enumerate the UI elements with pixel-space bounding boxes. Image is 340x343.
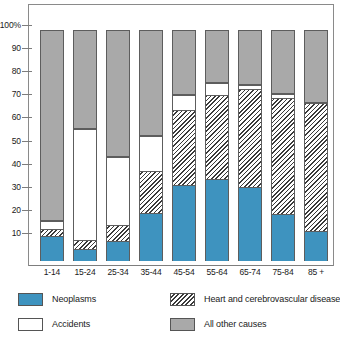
stacked-bar[interactable] [205,30,229,261]
accidents-swatch-icon [18,318,43,331]
y-tick-label-20: 20 [12,206,21,215]
segment-heart-cerebrovascular[interactable] [172,110,196,185]
segment-neoplasms[interactable] [139,213,163,262]
stacked-bar[interactable] [73,30,97,261]
segment-heart-cerebrovascular[interactable] [106,225,130,241]
segment-heart-cerebrovascular[interactable] [73,240,97,249]
stacked-bar[interactable] [304,30,328,261]
segment-accidents[interactable] [172,95,196,110]
x-axis-line [29,265,333,266]
segment-all-other-causes[interactable] [238,30,262,85]
segment-all-other-causes[interactable] [304,30,328,103]
segment-heart-cerebrovascular[interactable] [139,171,163,213]
y-tick-label-80: 80 [12,67,21,76]
segment-all-other-causes[interactable] [172,30,196,95]
y-tick-label-30: 30 [12,183,21,192]
segment-all-other-causes[interactable] [40,30,64,221]
segment-all-other-causes[interactable] [271,30,295,94]
x-axis: 1-14 15-24 25-34 35-44 45-54 55-64 65-74… [29,267,333,281]
segment-neoplasms[interactable] [238,187,262,261]
segment-accidents[interactable] [40,221,64,229]
y-axis: 100% 90 80 70 60 50 40 30 20 10 [0,0,28,266]
y-tick-label-10: 10 [12,229,21,238]
segment-neoplasms[interactable] [73,249,97,261]
segment-neoplasms[interactable] [304,231,328,261]
segment-neoplasms[interactable] [106,241,130,261]
segment-heart-cerebrovascular[interactable] [238,89,262,187]
segment-accidents[interactable] [73,129,97,240]
y-tick-label-40: 40 [12,160,21,169]
stacked-bar[interactable] [106,30,130,261]
y-tick-label-50: 50 [12,137,21,146]
segment-accidents[interactable] [106,157,130,225]
segment-heart-cerebrovascular[interactable] [40,229,64,236]
segment-all-other-causes[interactable] [205,30,229,83]
all-other-causes-swatch-icon [170,318,195,331]
segment-neoplasms[interactable] [40,236,64,261]
x-tick-label-85-plus: 85 + [296,267,336,278]
legend-label-all-other-causes: All other causes [204,319,266,330]
segment-accidents[interactable] [205,83,229,95]
y-tick-label-100: 100% [0,21,21,30]
heart-hatch-swatch-icon [170,293,195,306]
stacked-bar[interactable] [271,30,295,261]
y-tick-label-90: 90 [12,44,21,53]
legend-label-neoplasms: Neoplasms [52,294,96,305]
stacked-bar[interactable] [40,30,64,261]
legend: Neoplasms Heart and cerebrovascular dise… [18,292,330,340]
segment-neoplasms[interactable] [271,214,295,261]
segment-heart-cerebrovascular[interactable] [205,95,229,179]
segment-heart-cerebrovascular[interactable] [271,98,295,214]
segment-all-other-causes[interactable] [106,30,130,157]
segment-all-other-causes[interactable] [139,30,163,136]
segment-accidents[interactable] [139,136,163,171]
y-tick-label-60: 60 [12,113,21,122]
segment-heart-cerebrovascular[interactable] [304,103,328,231]
stacked-bar[interactable] [238,30,262,261]
y-tick-label-70: 70 [12,90,21,99]
segment-neoplasms[interactable] [205,179,229,261]
stacked-bar[interactable] [172,30,196,261]
segment-all-other-causes[interactable] [73,30,97,129]
neoplasms-swatch-icon [18,293,43,306]
stacked-bar[interactable] [139,30,163,261]
legend-label-accidents: Accidents [52,319,90,330]
segment-neoplasms[interactable] [172,185,196,261]
legend-label-heart: Heart and cerebrovascular disease [204,294,340,305]
bars-area [29,5,333,265]
